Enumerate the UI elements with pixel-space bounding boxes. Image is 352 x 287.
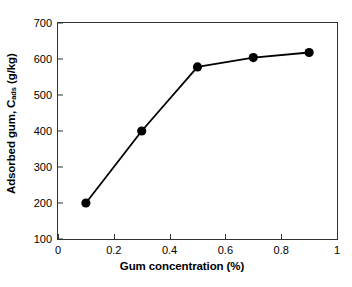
y-axis-tick-mark (58, 203, 63, 204)
x-axis-tick-mark (58, 234, 59, 239)
data-point-marker (193, 62, 202, 71)
y-axis-tick-mark (58, 95, 63, 96)
x-axis-tick-label: 0.6 (218, 244, 233, 256)
x-axis-tick-label: 0.2 (106, 244, 121, 256)
series-markers (81, 48, 313, 208)
y-axis-tick-mark (58, 23, 63, 24)
x-axis-tick-label: 0.4 (162, 244, 177, 256)
y-axis-title-prefix: Adsorbed gum, C (4, 100, 16, 194)
x-axis-tick-mark (114, 234, 115, 239)
y-axis-tick-label: 400 (34, 125, 52, 137)
data-point-marker (305, 48, 314, 57)
y-axis-tick-label: 600 (34, 53, 52, 65)
data-series-layer (58, 23, 337, 239)
y-axis-tick-label: 700 (34, 17, 52, 29)
plot-area: 100200300400500600700 00.20.40.60.81 (57, 22, 338, 240)
x-axis-tick-label: 0.8 (274, 244, 289, 256)
series-line (86, 53, 309, 203)
y-axis-title-suffix: (g/kg) (4, 54, 16, 88)
data-point-marker (81, 198, 90, 207)
y-axis-tick-label: 200 (34, 197, 52, 209)
x-axis-tick-mark (170, 234, 171, 239)
data-point-marker (137, 126, 146, 135)
y-axis-tick-mark (58, 59, 63, 60)
x-axis-title: Gum concentration (%) (22, 260, 342, 272)
x-axis-tick-label: 0 (55, 244, 61, 256)
y-axis-tick-mark (58, 167, 63, 168)
x-axis-tick-mark (337, 234, 338, 239)
y-axis-tick-label: 300 (34, 161, 52, 173)
y-axis-title-container: Adsorbed gum, Cads (g/kg) (0, 0, 22, 248)
y-axis-tick-mark (58, 131, 63, 132)
x-axis-tick-mark (281, 234, 282, 239)
x-axis-tick-mark (225, 234, 226, 239)
chart-figure: Adsorbed gum, Cads (g/kg) 10020030040050… (0, 0, 352, 287)
x-axis-tick-label: 1 (334, 244, 340, 256)
y-axis-tick-label: 100 (34, 233, 52, 245)
y-axis-tick-label: 500 (34, 89, 52, 101)
data-point-marker (249, 53, 258, 62)
y-axis-title: Adsorbed gum, Cads (g/kg) (4, 54, 17, 195)
y-axis-title-subscript: ads (9, 87, 18, 100)
